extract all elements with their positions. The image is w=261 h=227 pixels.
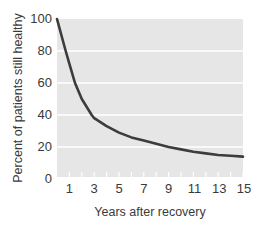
y-tick-label: 0 bbox=[45, 171, 52, 186]
y-tick-label: 40 bbox=[38, 107, 52, 122]
y-tick-label: 80 bbox=[38, 43, 52, 58]
x-tick-label: 7 bbox=[140, 181, 147, 196]
y-axis-ticks: 020406080100 bbox=[30, 11, 52, 186]
x-tick-label: 13 bbox=[212, 181, 226, 196]
x-axis-title: Years after recovery bbox=[94, 205, 206, 219]
x-tick-label: 5 bbox=[115, 181, 122, 196]
x-tick-label: 1 bbox=[66, 181, 73, 196]
y-tick-label: 100 bbox=[30, 11, 52, 26]
x-tick-label: 11 bbox=[188, 181, 202, 196]
y-tick-label: 60 bbox=[38, 75, 52, 90]
chart: 020406080100 13579111315 Percent of pati… bbox=[0, 0, 261, 227]
y-axis-title: Percent of patients still healthy bbox=[11, 12, 25, 182]
x-tick-label: 3 bbox=[91, 181, 98, 196]
x-tick-label: 15 bbox=[237, 181, 251, 196]
x-axis-ticks: 13579111315 bbox=[66, 181, 251, 196]
plot-area bbox=[57, 19, 243, 177]
y-tick-label: 20 bbox=[38, 139, 52, 154]
x-tick-label: 9 bbox=[165, 181, 172, 196]
